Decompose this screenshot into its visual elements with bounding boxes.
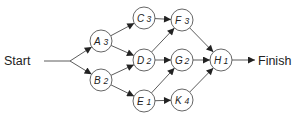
node-label: F [175, 15, 182, 26]
edge-start-to-a [70, 47, 92, 61]
edge-b-to-e [111, 85, 134, 96]
node-d: D2 [133, 49, 155, 71]
node-duration: 1 [147, 97, 152, 107]
edge-e-to-g [151, 68, 174, 93]
edge-f-to-h [190, 28, 214, 52]
edge-a-to-c [111, 23, 135, 36]
edge-k-to-h [190, 68, 214, 92]
nodes: A3B2C3D2E1F3G2K4H1 [90, 7, 232, 112]
node-h: H1 [210, 49, 232, 71]
node-label: H [214, 55, 222, 66]
edge-a-to-d [111, 45, 134, 55]
node-duration: 3 [147, 14, 152, 24]
network-diagram: A3B2C3D2E1F3G2K4H1 Start Finish [0, 0, 302, 119]
node-label: C [137, 13, 145, 24]
node-k: K4 [171, 89, 193, 111]
node-duration: 3 [185, 16, 190, 26]
node-f: F3 [171, 9, 193, 31]
node-duration: 1 [224, 56, 229, 66]
node-label: E [137, 96, 144, 107]
node-e: E1 [133, 90, 155, 112]
edge-start-to-b [70, 61, 92, 74]
edge-d-to-f [152, 28, 175, 52]
node-duration: 4 [185, 96, 190, 106]
node-duration: 2 [146, 56, 152, 66]
finish-label: Finish [258, 54, 291, 68]
start-label: Start [4, 54, 31, 68]
node-label: D [137, 55, 144, 66]
node-duration: 2 [103, 76, 109, 86]
node-label: A [93, 36, 101, 47]
node-c: C3 [133, 7, 155, 29]
node-duration: 3 [104, 37, 109, 47]
node-duration: 2 [184, 56, 190, 66]
edge-c-to-f [155, 19, 171, 20]
node-g: G2 [171, 49, 193, 71]
node-label: B [94, 75, 101, 86]
node-label: G [175, 55, 183, 66]
edge-b-to-d [111, 65, 134, 76]
node-b: B2 [90, 69, 112, 91]
node-a: A3 [90, 30, 112, 52]
